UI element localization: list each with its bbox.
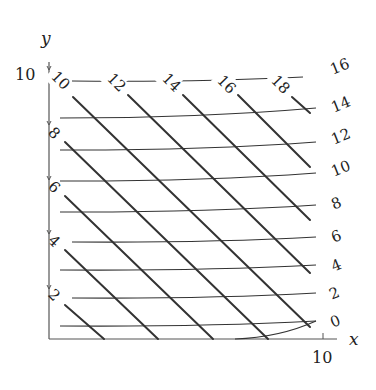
curve-label: 16: [328, 55, 352, 79]
curve-12: [60, 142, 316, 150]
curve-label: 8: [329, 193, 345, 213]
contour-diagram: x y 10 10 1614121086420 10121416188642: [0, 0, 376, 390]
y-max-label: 10: [15, 65, 35, 84]
x-axis-label: x: [349, 329, 359, 349]
curve-label: 4: [329, 255, 345, 275]
x-max-label: 10: [312, 348, 332, 367]
diagonal-label: 4: [44, 231, 63, 250]
diagonal-label: 8: [44, 123, 63, 142]
diagonal-line-6: [65, 196, 213, 339]
diagonal-line-16: [238, 95, 310, 167]
diagonal-line-14: [183, 95, 310, 220]
curve-label: 0: [328, 311, 344, 331]
diagonal-label: 2: [44, 285, 63, 304]
diagonal-label: 6: [44, 177, 63, 196]
curve-label: 6: [329, 226, 345, 246]
curve-label: 12: [329, 125, 353, 149]
curve-4: [60, 265, 316, 270]
diagonal-line-18: [292, 97, 310, 113]
y-axis-label: y: [40, 28, 51, 48]
curve-label: 2: [327, 283, 343, 303]
curve-label: 10: [329, 157, 353, 181]
curve-0: [60, 321, 316, 326]
curve-14: [60, 108, 316, 118]
diagonal-line-12: [128, 95, 310, 273]
diagonal-line-2: [65, 305, 104, 339]
curve-label: 14: [329, 93, 353, 117]
curve-family: 1614121086420: [60, 55, 353, 339]
